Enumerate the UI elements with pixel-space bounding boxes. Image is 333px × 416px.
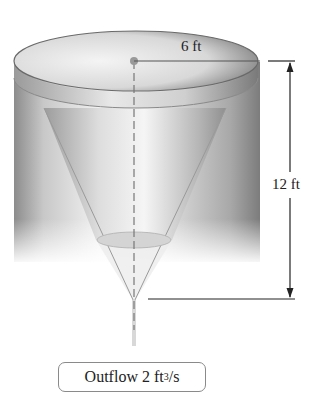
tank-diagram xyxy=(0,0,333,416)
arrow-down-icon xyxy=(287,288,294,298)
outflow-label-box: Outflow 2 ft3/s xyxy=(58,362,206,392)
radius-label: 6 ft xyxy=(181,38,201,55)
outflow-prefix: Outflow 2 ft xyxy=(85,368,164,386)
height-label: 12 ft xyxy=(272,174,300,195)
outflow-exponent: 3 xyxy=(164,371,169,382)
arrow-up-icon xyxy=(287,62,294,72)
outflow-suffix: /s xyxy=(169,368,180,386)
